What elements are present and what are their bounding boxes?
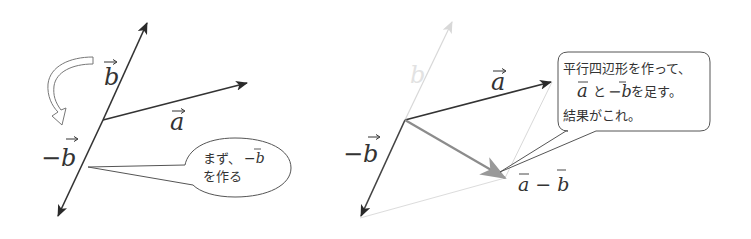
svg-text:a: a — [577, 80, 588, 101]
vector-a — [405, 82, 551, 120]
label-b-faded: b — [410, 61, 425, 89]
svg-text:平行四辺形を作って、: 平行四辺形を作って、 — [563, 61, 691, 76]
svg-text:まず、: まず、 — [203, 151, 241, 166]
label-a-minus-b: a − b — [518, 170, 570, 195]
label-neg-b: −b — [343, 135, 380, 169]
label-a: a — [170, 108, 185, 136]
callout-parallelogram: 平行四辺形を作って、 a と −b を足す。 結果がこれ。 — [500, 52, 710, 172]
rotate-arrow-icon — [48, 57, 93, 125]
svg-text:−b: −b — [41, 144, 76, 172]
parallelogram-edge-bottom — [360, 178, 505, 218]
vector-neg-b — [361, 120, 405, 216]
svg-text:a − b: a − b — [518, 173, 570, 195]
vector-subtraction-diagram: b a −b まず、 −b を作る — [0, 0, 751, 239]
right-panel: b a −b a − b 平行四辺形を作って、 a と −b を足す。 結 — [343, 22, 710, 218]
left-panel: b a −b まず、 −b を作る — [41, 23, 291, 216]
label-a: a — [491, 68, 506, 96]
callout-make-neg-b: まず、 −b を作る — [88, 138, 291, 197]
parallelogram-edge-top — [505, 82, 552, 178]
svg-text:結果がこれ。: 結果がこれ。 — [563, 108, 641, 123]
svg-text:−b: −b — [343, 140, 378, 168]
svg-text:と: と — [593, 84, 606, 99]
svg-text:b: b — [104, 63, 119, 91]
svg-text:を足す。: を足す。 — [631, 84, 682, 99]
label-b: b — [104, 60, 119, 92]
svg-text:−b: −b — [244, 150, 265, 166]
svg-text:を作る: を作る — [203, 169, 242, 184]
vector-a-minus-b — [405, 120, 505, 178]
svg-text:−b: −b — [608, 82, 632, 101]
svg-text:b: b — [410, 61, 425, 89]
label-neg-b: −b — [41, 137, 78, 173]
